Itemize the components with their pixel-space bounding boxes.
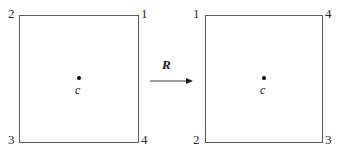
transformation-figure: 2 1 3 4 c R 1 4 2 3 c <box>0 0 338 163</box>
image-square-corner-top-left: 1 <box>193 7 200 20</box>
image-square-corner-bottom-right: 3 <box>325 133 332 146</box>
source-square-corner-bottom-left: 3 <box>8 133 15 146</box>
image-square-corner-bottom-left: 2 <box>193 133 200 146</box>
transformation-arrow-label: R <box>162 58 171 71</box>
source-square-corner-top-left: 2 <box>8 7 15 20</box>
image-square-center-dot <box>262 76 266 80</box>
image-square-center-label: c <box>260 84 265 96</box>
source-square-corner-bottom-right: 4 <box>141 133 148 146</box>
source-square-corner-top-right: 1 <box>141 7 148 20</box>
right-arrow-icon <box>150 76 194 86</box>
transformation-arrow-group: R <box>150 58 194 90</box>
image-square-corner-top-right: 4 <box>325 7 332 20</box>
source-square-center-label: c <box>75 84 80 96</box>
source-square-center-dot <box>77 76 81 80</box>
